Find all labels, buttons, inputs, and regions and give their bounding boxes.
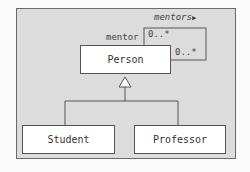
- role-label: mentor: [106, 32, 139, 42]
- class-name: Professor: [153, 134, 207, 145]
- multiplicity-1: 0..*: [148, 29, 170, 39]
- class-name: Person: [107, 54, 143, 65]
- class-student: Student: [22, 125, 115, 154]
- class-professor: Professor: [134, 125, 226, 154]
- class-name: Student: [47, 134, 89, 145]
- class-person: Person: [80, 45, 171, 74]
- direction-arrow-icon: ▶: [192, 14, 196, 22]
- generalization-arrow-icon: [119, 77, 131, 87]
- association-name: mentors▶: [154, 12, 196, 22]
- multiplicity-2: 0..*: [175, 47, 197, 57]
